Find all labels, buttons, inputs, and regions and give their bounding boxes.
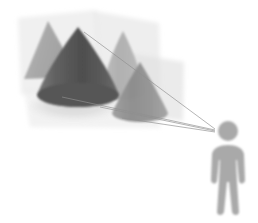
observer-head bbox=[218, 121, 238, 141]
cone-primary-base bbox=[37, 83, 119, 107]
perspective-projection-diagram bbox=[0, 0, 258, 223]
diagram-canvas bbox=[0, 0, 258, 223]
